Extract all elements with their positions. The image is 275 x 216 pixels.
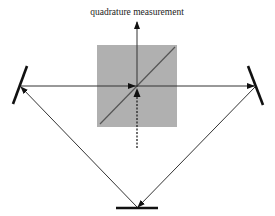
optical-ring-cavity-diagram: quadrature measurement — [0, 0, 275, 216]
left-mirror — [13, 66, 27, 104]
quadrature-measurement-label: quadrature measurement — [90, 7, 184, 17]
